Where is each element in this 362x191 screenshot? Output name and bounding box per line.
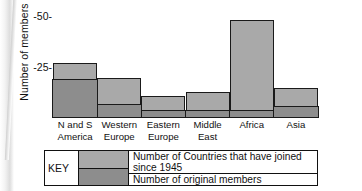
x-axis-label-n-and-s-america: N and SAmerica [53, 119, 97, 143]
bar-segment-original-members [185, 110, 230, 118]
bar-middle-east [186, 92, 230, 117]
legend-swatch-joined [79, 151, 128, 169]
legend-label-original: Number of original members [129, 174, 317, 185]
x-axis-label-eastern-europe: EasternEurope [141, 119, 185, 143]
plot-area [53, 10, 318, 117]
y-axis-tick-50: -50- [26, 10, 52, 22]
legend: KEY Number of Countries that have joined… [44, 150, 318, 186]
legend-labels: Number of Countries that have joined sin… [129, 151, 317, 185]
bar-n-and-s-america [53, 63, 97, 117]
bar-segment-original-members [273, 106, 318, 118]
y-axis-tick-25: -25- [26, 61, 52, 73]
x-axis-label-western-europe: WesternEurope [97, 119, 141, 143]
x-axis-labels: N and SAmericaWesternEuropeEasternEurope… [53, 119, 318, 145]
bar-segment-original-members [52, 79, 97, 118]
bar-segment-original-members [229, 110, 274, 118]
chart-page: Number of members -50- -25- N and SAmeri… [0, 0, 362, 191]
x-axis-label-middle-east: MiddleEast [186, 119, 230, 143]
bar-africa [230, 20, 274, 117]
bar-segment-original-members [141, 110, 186, 118]
x-axis-label-asia: Asia [274, 119, 318, 131]
x-axis-label-africa: Africa [230, 119, 274, 131]
bar-eastern-europe [141, 96, 185, 117]
bar-segment-original-members [97, 104, 142, 118]
bar-asia [274, 88, 318, 117]
legend-swatch-original [79, 169, 128, 186]
legend-label-joined: Number of Countries that have joined sin… [129, 151, 317, 174]
legend-swatches [79, 151, 129, 185]
legend-title: KEY [45, 151, 79, 185]
bar-western-europe [97, 78, 141, 117]
